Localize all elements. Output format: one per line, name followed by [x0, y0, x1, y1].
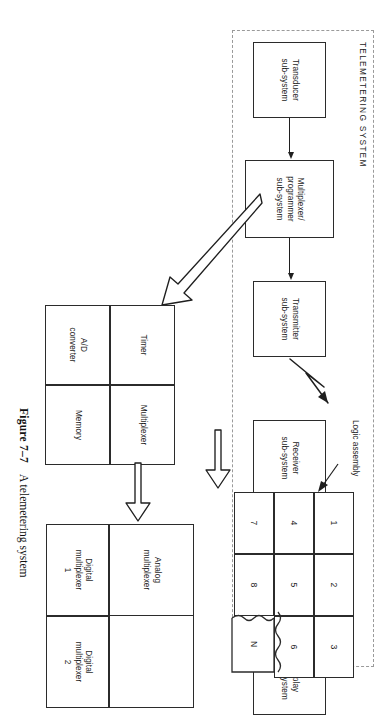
block-analog-multiplexer: Analog multiplexer — [109, 524, 194, 616]
figure-number: Figure 7–7 — [17, 408, 30, 463]
block-line: multiplexer — [72, 642, 83, 683]
block-line: Receiver — [290, 437, 301, 480]
block-line: Digital — [83, 642, 94, 683]
block-line: Timer — [137, 334, 148, 355]
enclosure-label: TELEMETERING SYSTEM — [358, 42, 368, 168]
block-line: sub-system — [279, 437, 290, 480]
torn-break-secondary-icon — [270, 610, 284, 684]
logic-cell-label: 6 — [289, 645, 299, 650]
block-digital-multiplexer-1: Digital multiplexer 1 — [46, 524, 109, 616]
logic-cell: 4 — [274, 492, 314, 554]
block-line: sub-system — [279, 59, 290, 102]
logic-cell-label: 4 — [289, 521, 299, 526]
logic-assembly-label-line: Logic — [351, 420, 360, 440]
logic-cell-label: 5 — [289, 583, 299, 588]
block-digital-multiplexer-2: Digital multiplexer 2 — [46, 616, 109, 708]
block-line: 1 — [62, 550, 73, 591]
flow-arrow-mux-to-logic-icon — [197, 430, 237, 492]
arrow-head-icon — [288, 152, 294, 159]
logic-cell-label: 3 — [329, 645, 339, 650]
logic-assembly-label-line: assembly — [351, 442, 360, 477]
block-line: Multiplexer — [137, 405, 148, 446]
logic-cell: 7 — [234, 492, 274, 554]
block-memory: Memory — [45, 385, 110, 465]
block-line: Transducer — [290, 59, 301, 102]
logic-cell-label: 7 — [249, 521, 259, 526]
logic-cell-label: N — [249, 641, 259, 647]
flow-arrow-front-end-to-mux-icon — [117, 463, 157, 525]
block-line: programmer — [284, 176, 295, 222]
logic-cell-label: 2 — [329, 583, 339, 588]
block-line: sub-system — [279, 298, 290, 341]
logic-cell: 2 — [314, 554, 354, 616]
connector-line — [289, 118, 290, 153]
logic-cell: 8 — [234, 554, 274, 616]
connector-line — [289, 238, 290, 274]
block-transmitter: Transmitter sub-system — [253, 281, 326, 357]
block-line: A/D — [78, 327, 89, 362]
block-ad-converter: A/D converter — [45, 305, 110, 385]
block-line: multiplexer — [141, 550, 152, 591]
block-line: multiplexer — [72, 550, 83, 591]
expansion-arrow-icon — [144, 192, 262, 312]
rf-link-icon — [282, 357, 334, 427]
block-analog-multiplexer-extension — [109, 616, 194, 708]
block-line: Transmitter — [290, 298, 301, 341]
block-line: converter — [67, 327, 78, 362]
block-line: Digital — [83, 550, 94, 591]
block-transducer: Transducer sub-system — [253, 42, 326, 118]
arrow-head-icon — [288, 273, 294, 280]
logic-cell-n: N — [234, 616, 274, 672]
block-line: Multiplexer/ — [295, 176, 306, 222]
figure-caption: Figure 7–7A telemetering system — [17, 408, 30, 578]
logic-cell: 3 — [314, 616, 354, 678]
logic-assembly-leader-icon — [312, 462, 342, 502]
logic-cell: 5 — [274, 554, 314, 616]
logic-cell-label: 8 — [249, 583, 259, 588]
logic-cell-label: 1 — [329, 521, 339, 526]
block-timer: Timer — [110, 305, 175, 385]
block-line: Memory — [72, 410, 83, 440]
block-multiplexer: Multiplexer — [110, 385, 175, 465]
logic-assembly-label: Logic assembly — [350, 420, 360, 476]
block-line: sub-system — [274, 176, 285, 222]
logic-assembly-grid: 1 2 3 4 5 6 7 8 N — [234, 492, 354, 678]
block-line: Analog — [152, 550, 163, 591]
block-line: 2 — [62, 642, 73, 683]
figure-title: A telemetering system — [17, 474, 30, 578]
